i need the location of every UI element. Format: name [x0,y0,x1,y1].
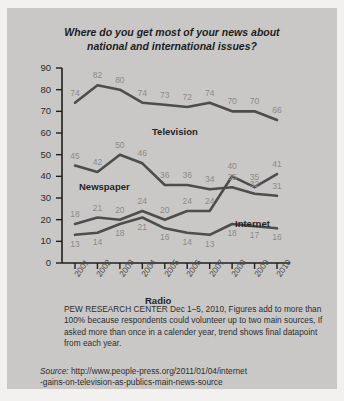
y-tick-label: 40 [31,170,51,181]
data-label-television-2005: 73 [156,90,174,100]
data-label-newspaper-2004: 46 [133,148,151,158]
y-tick-label: 20 [31,214,51,225]
chart-title-line-1: Where do you get most of your news about [7,26,337,40]
data-label-radio-2003: 18 [111,228,129,238]
data-label-television-2010: 66 [268,105,286,115]
chart-title: Where do you get most of your news about… [7,26,337,53]
data-label-internet-2003: 20 [111,205,129,215]
series-label-newspaper: Newspaper [79,181,130,192]
y-tick-label: 70 [31,105,51,116]
data-label-radio-2007: 13 [201,239,219,249]
chart-source: Source: http://www.people-press.org/2011… [40,366,330,389]
series-label-internet: Internet [235,218,270,229]
data-label-television-2008: 70 [223,96,241,106]
y-tick-label: 90 [31,62,51,73]
series-label-television: Television [152,126,198,137]
data-label-newspaper-2003: 50 [111,140,129,150]
data-label-television-2001: 74 [66,88,84,98]
data-label-newspaper-2006: 36 [178,170,196,180]
chart-card: Where do you get most of your news about… [7,8,337,389]
data-label-television-2006: 72 [178,92,196,102]
chart-note: PEW RESEARCH CENTER Dec 1–5, 2010, Figur… [64,304,326,350]
data-label-radio-2002: 14 [88,237,106,247]
source-url-line-2: -gains-on-television-as-publics-main-new… [40,377,223,387]
data-label-radio-2005: 16 [156,232,174,242]
data-label-newspaper-2001: 45 [66,151,84,161]
data-label-radio-2008: 18 [223,228,241,238]
y-tick-marks [56,68,62,263]
data-label-internet-2009: 35 [246,172,264,182]
source-url-line-1: http://www.people-press.org/2011/01/04/i… [71,366,247,376]
data-label-internet-2008: 40 [223,161,241,171]
data-label-internet-2001: 18 [66,209,84,219]
data-label-internet-2005: 20 [156,205,174,215]
y-tick-label: 60 [31,127,51,138]
y-tick-label: 10 [31,235,51,246]
plot-area: 0102030405060708090 20012002200320042005… [7,60,337,272]
chart-title-line-2: national and international issues? [7,40,337,54]
y-tick-label: 80 [31,84,51,95]
data-label-newspaper-2005: 36 [156,170,174,180]
y-tick-label: 0 [31,257,51,268]
data-label-radio-2001: 13 [66,239,84,249]
data-label-radio-2009: 17 [246,230,264,240]
source-label: Source: [40,366,69,376]
data-label-internet-2004: 24 [133,196,151,206]
data-label-internet-2006: 24 [178,196,196,206]
data-label-newspaper-2007: 34 [201,174,219,184]
data-label-radio-2010: 16 [268,232,286,242]
data-label-newspaper-2010: 31 [268,181,286,191]
data-label-internet-2010: 41 [268,159,286,169]
data-label-internet-2007: 24 [201,196,219,206]
y-tick-label: 30 [31,192,51,203]
data-label-radio-2004: 21 [133,222,151,232]
data-label-television-2009: 70 [246,96,264,106]
data-label-television-2004: 74 [133,88,151,98]
y-tick-label: 50 [31,149,51,160]
data-label-newspaper-2002: 42 [88,157,106,167]
data-label-radio-2006: 14 [178,237,196,247]
data-label-television-2003: 80 [111,75,129,85]
data-label-internet-2002: 21 [88,203,106,213]
data-label-newspaper-2008: 35 [223,172,241,182]
data-label-television-2002: 82 [88,70,106,80]
data-label-television-2007: 74 [201,88,219,98]
